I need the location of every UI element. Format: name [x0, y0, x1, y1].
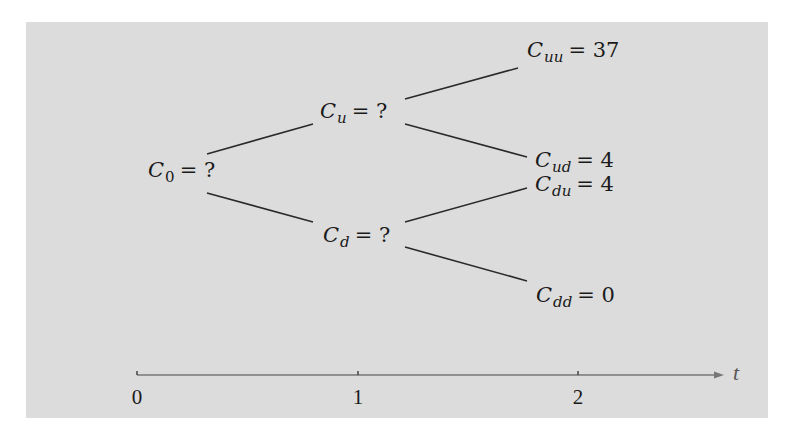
node-value: = 0 [577, 283, 615, 307]
node-symbol: C [536, 283, 552, 307]
node-symbol: C [527, 38, 543, 62]
node-symbol: C [535, 148, 551, 172]
edge-c0-cd [207, 193, 313, 222]
node-value: = ? [355, 223, 391, 247]
node-subscript: du [552, 182, 571, 200]
node-symbol: C [320, 99, 336, 123]
node-value: = 37 [568, 38, 619, 62]
node-value: = 4 [576, 172, 614, 196]
node-cdu: Cdu= 4 [535, 174, 614, 195]
node-cuu: Cuu= 37 [527, 40, 619, 61]
edge-c0-cu [207, 124, 313, 154]
arrow-right-icon [714, 372, 724, 379]
node-subscript: u [337, 109, 347, 127]
node-value: = 4 [576, 148, 614, 172]
node-symbol: C [323, 223, 339, 247]
node-cd: Cd= ? [323, 225, 390, 246]
edge-cu-cuu [405, 68, 518, 99]
axis-tick-label-0: 0 [132, 387, 143, 408]
node-c0: C0= ? [148, 160, 215, 181]
node-subscript: d [340, 233, 350, 251]
axis-tick-label-2: 2 [573, 387, 584, 408]
node-subscript: dd [553, 293, 572, 311]
node-symbol: C [148, 158, 164, 182]
axis-variable-label: t [733, 362, 739, 384]
edge-cd-cdd [405, 247, 527, 281]
edge-cd-cdu [405, 188, 527, 222]
edge-cu-cud [405, 124, 527, 157]
tree-edges [0, 0, 798, 441]
node-cud: Cud= 4 [535, 150, 614, 171]
node-value: = ? [352, 99, 388, 123]
node-symbol: C [535, 172, 551, 196]
axis-tick-label-1: 1 [353, 387, 364, 408]
node-subscript: 0 [165, 168, 175, 186]
node-subscript: uu [544, 48, 563, 66]
node-value: = ? [180, 158, 216, 182]
node-cu: Cu= ? [320, 101, 387, 122]
node-cdd: Cdd= 0 [536, 285, 615, 306]
